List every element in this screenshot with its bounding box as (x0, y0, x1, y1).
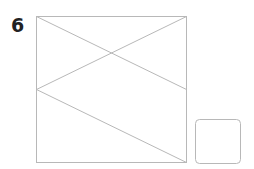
wireframe-diagram (0, 0, 254, 169)
placeholder-diagonal-line (37, 90, 187, 163)
image-placeholder-box (37, 17, 187, 163)
small-rounded-box (196, 120, 241, 164)
